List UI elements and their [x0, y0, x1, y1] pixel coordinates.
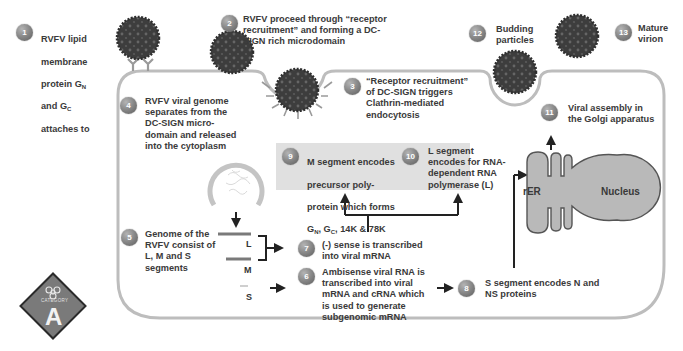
step-8-badge: 8 [458, 280, 475, 297]
segment-m-label: M [244, 265, 252, 275]
step-13-badge: 13 [615, 24, 632, 41]
step-9-line-1: M segment encodes [307, 157, 395, 167]
step-2-badge: 2 [221, 15, 238, 32]
step-1-label: RVFV lipid membrane protein GN and GC at… [41, 23, 90, 135]
step-4-badge: 4 [120, 97, 137, 114]
step-1-badge: 1 [16, 24, 33, 41]
step-10-badge: 10 [402, 148, 419, 165]
step-7-badge: 7 [298, 240, 315, 257]
virion-mature [556, 15, 598, 57]
step-12-badge: 12 [469, 25, 486, 42]
step-11-label: Viral assembly in the Golgi apparatus [568, 103, 654, 125]
step-5-label: Genome of the RVFV consist of L, M and S… [145, 229, 215, 274]
gc-subscript: C [67, 106, 71, 112]
rer-nucleus-organelle [527, 152, 660, 233]
segment-s-label: S [246, 292, 252, 302]
virion-budding [494, 51, 536, 93]
step-5-badge: 5 [121, 229, 138, 246]
rer-label: rER [523, 186, 541, 197]
hazard-category-letter: A [45, 303, 62, 331]
step-6-badge: 6 [298, 268, 315, 285]
step-9-line-2: precursor poly- [307, 180, 374, 190]
nucleus-label: Nucleus [601, 186, 640, 197]
gn-subscript: N [82, 84, 86, 90]
virion-endocytosis [276, 69, 318, 111]
step-10-label: L segment encodes for RNA- dependent RNA… [428, 146, 506, 191]
step-1-line-5: attaches to [41, 124, 90, 134]
segment-l-label: L [246, 239, 252, 249]
step-11-badge: 11 [541, 104, 558, 121]
rvfv-replication-diagram: CATEGORY A 1 RVFV lipid membrane protein… [0, 0, 683, 351]
step-9-badge: 9 [282, 148, 299, 165]
step-2-label: RVFV proceed through “receptor recruitme… [243, 14, 387, 48]
step-1-line-4: and G [41, 101, 67, 111]
protein-sizes-text: , 14K & 78K [335, 224, 386, 234]
step-3-label: “Receptor recruitment” of DC-SIGN trigge… [366, 76, 468, 121]
step-9-line-3: protein which forms [307, 202, 395, 212]
step-7-label: (-) sense is transcribed into viral mRNA [322, 240, 423, 262]
step-1-line-3: protein G [41, 79, 82, 89]
step-13-label: Mature virion [638, 23, 668, 45]
step-4-label: RVFV viral genome separates from the DC-… [145, 96, 236, 152]
step-3-badge: 3 [344, 78, 361, 95]
uncoating-genome [210, 165, 262, 205]
step-12-label: Budding particles [496, 24, 534, 46]
step-8-label: S segment encodes N and NS proteins [485, 278, 599, 300]
step-6-label: Ambisense viral RNA is transcribed into … [322, 267, 425, 323]
step-1-line-1: RVFV lipid [41, 34, 87, 44]
gc-text: , G [319, 224, 331, 234]
step-9-label: M segment encodes precursor poly- protei… [307, 146, 395, 236]
step-1-line-2: membrane [41, 57, 87, 67]
virion-attaching [117, 17, 159, 59]
dc-sign-receptors [128, 59, 153, 71]
